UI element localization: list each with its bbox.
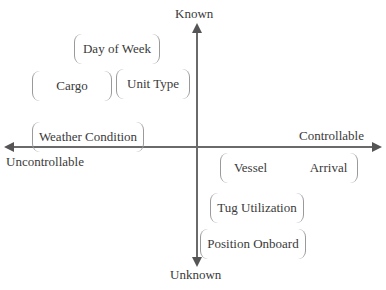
item-label: Weather Condition (39, 129, 137, 145)
item-label: Tug Utilization (217, 200, 296, 216)
arrow-down-icon (192, 257, 202, 267)
item-label: Arrival (310, 160, 348, 176)
item-weather-condition: Weather Condition (32, 122, 144, 152)
axis-label-known: Known (175, 6, 213, 22)
item-label: Position Onboard (207, 236, 298, 252)
item-label: Day of Week (83, 41, 151, 57)
item-day-of-week: Day of Week (74, 34, 160, 64)
arrow-right-icon (372, 142, 382, 152)
arrow-up-icon (192, 23, 202, 33)
item-tug-utilization: Tug Utilization (210, 193, 304, 223)
item-arrival: Arrival (300, 153, 358, 183)
axis-label-uncontrollable: Uncontrollable (6, 154, 84, 170)
axis-label-unknown: Unknown (170, 267, 221, 283)
item-position-onboard: Position Onboard (200, 229, 306, 259)
vertical-axis (196, 30, 198, 260)
arrow-left-icon (4, 142, 14, 152)
item-label: Cargo (56, 78, 88, 94)
item-vessel: Vessel (220, 153, 280, 183)
item-unit-type: Unit Type (116, 69, 190, 99)
item-cargo: Cargo (32, 71, 112, 101)
item-label: Vessel (234, 160, 267, 176)
axis-label-controllable: Controllable (299, 128, 364, 144)
item-label: Unit Type (127, 76, 179, 92)
